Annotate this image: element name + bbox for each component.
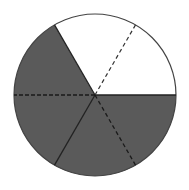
fraction-circle-diagram xyxy=(0,0,189,190)
